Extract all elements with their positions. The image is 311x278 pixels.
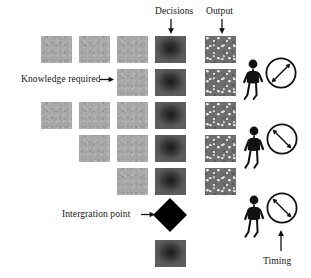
knowledge-cell-r2c3: [117, 69, 148, 96]
decision-cell-r2: [155, 69, 186, 96]
actor-3: [238, 192, 300, 244]
knowledge-cell-r4c2: [79, 135, 110, 162]
clock-hand-icon: [273, 130, 292, 149]
decision-cell-r5: [155, 168, 186, 195]
decision-cell-r4: [155, 135, 186, 162]
output-arrow: [216, 19, 228, 35]
integration-point-label: Intergration point: [62, 209, 130, 219]
output-cell-r2: [205, 69, 236, 96]
output-label: Output: [206, 6, 233, 16]
integration-point-diamond: [153, 198, 187, 232]
decisions-arrow: [165, 19, 177, 35]
knowledge-cell-r3c2: [79, 102, 110, 129]
knowledge-cell-r1c1: [41, 36, 72, 63]
knowledge-cell-r3c1: [41, 102, 72, 129]
clock-hand-icon: [272, 64, 291, 83]
decisions-label: Decisions: [155, 6, 193, 16]
output-cell-r3: [205, 102, 236, 129]
knowledge-cell-r1c3: [117, 36, 148, 63]
knowledge-cell-r4c3: [117, 135, 148, 162]
knowledge-arrow: [100, 74, 115, 85]
output-cell-r4: [205, 135, 236, 162]
actor-2: [240, 123, 302, 175]
actor-1: [240, 56, 302, 106]
diagram-canvas: Decisions Output Knowledge required: [0, 0, 311, 278]
output-cell-r1: [205, 36, 236, 63]
clock-hand-icon: [273, 199, 292, 218]
output-cell-r5: [205, 168, 236, 195]
timing-arrow: [275, 229, 287, 251]
timing-label: Timing: [263, 256, 291, 266]
decision-cell-r1: [155, 36, 186, 63]
final-decision-cell: [155, 240, 186, 267]
knowledge-cell-r5c3: [117, 168, 148, 195]
knowledge-cell-r1c2: [79, 36, 110, 63]
knowledge-cell-r3c3: [117, 102, 148, 129]
knowledge-required-label: Knowledge required: [21, 74, 101, 84]
decision-cell-r3: [155, 102, 186, 129]
